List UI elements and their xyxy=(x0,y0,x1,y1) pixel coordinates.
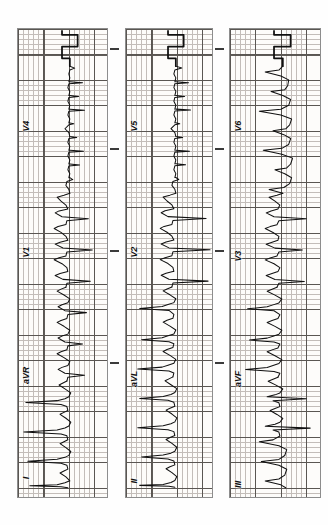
lead-label-v2: V2 xyxy=(129,247,139,258)
lead-label-i: I xyxy=(21,477,31,479)
gutter-tick-left-4 xyxy=(110,362,119,364)
lead-label-avr: aVR xyxy=(21,367,31,384)
ecg-panel-mid: V5 V2 aVL II xyxy=(125,28,213,498)
ecg-sheet: V4 V1 aVR I V5 V2 aVL II xyxy=(0,0,328,525)
gutter-tick-left-1 xyxy=(110,48,119,50)
waveform-trace-right xyxy=(230,29,320,489)
gutter-tick-right-2 xyxy=(215,148,224,150)
waveform-trace-left xyxy=(18,29,107,489)
gutter-tick-right-1 xyxy=(215,48,224,50)
ecg-panel-right: V6 V3 aVF III xyxy=(229,28,321,498)
lead-label-ii: II xyxy=(129,479,139,484)
lead-label-iii: III xyxy=(233,481,243,488)
gutter-tick-left-2 xyxy=(110,148,119,150)
gutter-tick-left-3 xyxy=(110,250,119,252)
lead-label-v5: V5 xyxy=(129,121,139,132)
waveform-trace-mid xyxy=(126,29,212,488)
ecg-panel-left: V4 V1 aVR I xyxy=(17,28,108,498)
gutter-tick-right-4 xyxy=(215,362,224,364)
lead-label-v6: V6 xyxy=(233,121,243,132)
lead-label-avf: aVF xyxy=(233,371,243,387)
lead-label-avl: aVL xyxy=(129,371,139,387)
gutter-tick-right-3 xyxy=(215,250,224,252)
lead-label-v4: V4 xyxy=(21,121,31,132)
lead-label-v3: V3 xyxy=(233,251,243,262)
lead-label-v1: V1 xyxy=(21,247,31,258)
